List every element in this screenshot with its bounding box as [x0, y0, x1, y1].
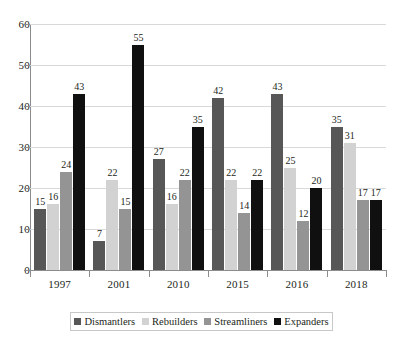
- x-tick-mark: [89, 271, 90, 277]
- x-tick-label-2001: 2001: [89, 278, 148, 291]
- bar-slot: 27: [153, 24, 165, 270]
- bar-streamliners-2010: [179, 180, 191, 270]
- bar-value-label: 35: [332, 115, 342, 125]
- x-tick-mark: [149, 271, 150, 277]
- bar-dismantlers-2015: [212, 98, 224, 270]
- legend-item-rebuilders[interactable]: Rebuilders: [142, 316, 198, 327]
- legend-swatch-icon: [74, 318, 81, 325]
- bar-dismantlers-2018: [331, 127, 343, 271]
- bar-slot: 43: [271, 24, 283, 270]
- x-tick-mark: [267, 271, 268, 277]
- bar-dismantlers-2010: [153, 159, 165, 270]
- bar-value-label: 55: [133, 33, 143, 43]
- bar-rebuilders-2016: [284, 168, 296, 271]
- x-tick-label-2010: 2010: [149, 278, 208, 291]
- bar-group: 27162235: [149, 24, 208, 270]
- bar-group: 43251220: [267, 24, 326, 270]
- bar-slot: 43: [73, 24, 85, 270]
- bar-value-label: 31: [345, 131, 355, 141]
- bar-slot: 22: [225, 24, 237, 270]
- bar-value-label: 22: [252, 168, 262, 178]
- bar-rebuilders-1997: [47, 204, 59, 270]
- bar-value-label: 25: [285, 156, 295, 166]
- bar-value-label: 20: [311, 176, 321, 186]
- bar-streamliners-2015: [238, 213, 250, 270]
- bar-slot: 31: [344, 24, 356, 270]
- bar-slot: 14: [238, 24, 250, 270]
- bar-group: 15162443: [30, 24, 89, 270]
- bar-value-label: 15: [35, 197, 45, 207]
- plot-area: 1516244372215552716223542221422432512203…: [30, 24, 386, 270]
- bar-streamliners-2001: [119, 209, 131, 271]
- bar-value-label: 17: [358, 188, 368, 198]
- bar-group: 42221422: [208, 24, 267, 270]
- x-tick-mark: [208, 271, 209, 277]
- bar-slot: 17: [370, 24, 382, 270]
- bar-dismantlers-1997: [34, 209, 46, 271]
- bar-slot: 22: [179, 24, 191, 270]
- bar-rebuilders-2010: [166, 204, 178, 270]
- bar-streamliners-2018: [357, 200, 369, 270]
- bar-group: 7221555: [89, 24, 148, 270]
- bar-slot: 24: [60, 24, 72, 270]
- legend-label: Rebuilders: [152, 316, 198, 327]
- legend-label: Dismantlers: [84, 316, 135, 327]
- bar-dismantlers-2001: [93, 241, 105, 270]
- bar-value-label: 7: [97, 229, 102, 239]
- legend-label: Expanders: [284, 316, 328, 327]
- bar-value-label: 43: [74, 82, 84, 92]
- bar-value-label: 15: [120, 197, 130, 207]
- bar-slot: 55: [132, 24, 144, 270]
- bar-value-label: 35: [193, 115, 203, 125]
- bar-expanders-2018: [370, 200, 382, 270]
- bar-value-label: 22: [107, 168, 117, 178]
- x-tick-label-2016: 2016: [267, 278, 326, 291]
- bar-expanders-1997: [73, 94, 85, 270]
- legend-swatch-icon: [274, 318, 281, 325]
- bar-expanders-2015: [251, 180, 263, 270]
- bar-slot: 35: [331, 24, 343, 270]
- bar-value-label: 16: [167, 192, 177, 202]
- legend-item-dismantlers[interactable]: Dismantlers: [74, 316, 135, 327]
- x-axis-labels: 199720012010201520162018: [30, 278, 386, 291]
- x-tick-label-1997: 1997: [30, 278, 89, 291]
- y-axis: 0102030405060: [0, 24, 30, 271]
- legend-swatch-icon: [142, 318, 149, 325]
- bar-value-label: 16: [48, 192, 58, 202]
- bar-slot: 22: [251, 24, 263, 270]
- x-tick-mark: [30, 271, 31, 277]
- legend-item-expanders[interactable]: Expanders: [274, 316, 328, 327]
- x-tick-mark: [327, 271, 328, 277]
- bar-value-label: 22: [180, 168, 190, 178]
- bar-slot: 16: [166, 24, 178, 270]
- bar-streamliners-1997: [60, 172, 72, 270]
- bar-value-label: 12: [298, 209, 308, 219]
- bar-streamliners-2016: [297, 221, 309, 270]
- bar-rebuilders-2001: [106, 180, 118, 270]
- legend-item-streamliners[interactable]: Streamliners: [204, 316, 267, 327]
- bar-value-label: 42: [213, 86, 223, 96]
- chart-legend: DismantlersRebuildersStreamlinersExpande…: [70, 312, 333, 331]
- bar-rebuilders-2018: [344, 143, 356, 270]
- x-tick-mark: [386, 271, 387, 277]
- bar-groups: 1516244372215552716223542221422432512203…: [30, 24, 386, 270]
- bar-group: 35311717: [327, 24, 386, 270]
- bar-slot: 22: [106, 24, 118, 270]
- bar-slot: 16: [47, 24, 59, 270]
- bar-value-label: 22: [226, 168, 236, 178]
- bar-slot: 42: [212, 24, 224, 270]
- bar-value-label: 14: [239, 201, 249, 211]
- bar-slot: 25: [284, 24, 296, 270]
- bar-rebuilders-2015: [225, 180, 237, 270]
- bar-value-label: 17: [371, 188, 381, 198]
- x-tick-label-2018: 2018: [327, 278, 386, 291]
- bar-expanders-2016: [310, 188, 322, 270]
- bar-value-label: 43: [272, 82, 282, 92]
- bar-expanders-2001: [132, 45, 144, 271]
- bar-slot: 35: [192, 24, 204, 270]
- bar-slot: 7: [93, 24, 105, 270]
- legend-swatch-icon: [204, 318, 211, 325]
- bar-slot: 17: [357, 24, 369, 270]
- bar-dismantlers-2016: [271, 94, 283, 270]
- bar-slot: 12: [297, 24, 309, 270]
